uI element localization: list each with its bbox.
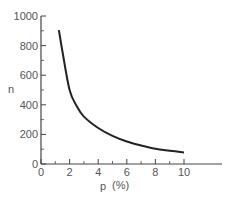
x-tick-label: 6: [124, 166, 130, 178]
y-tick-label: 600: [20, 69, 38, 81]
x-axis-title: p: [100, 180, 106, 192]
x-axis-unit: (%): [112, 179, 129, 191]
axes: 020040060080010000246810: [14, 10, 222, 178]
y-tick-label: 400: [20, 99, 38, 111]
x-tick-label: 4: [95, 166, 101, 178]
y-tick-label: 1000: [14, 10, 38, 22]
chart: 020040060080010000246810 n p (%): [0, 0, 228, 201]
y-tick-label: 200: [20, 128, 38, 140]
data-curve: [59, 30, 184, 152]
x-tick-label: 2: [67, 166, 73, 178]
x-tick-label: 0: [38, 166, 44, 178]
y-tick-label: 800: [20, 40, 38, 52]
y-axis-title: n: [8, 83, 14, 95]
x-tick-label: 8: [152, 166, 158, 178]
curve-layer: [59, 30, 184, 152]
x-tick-label: 10: [178, 166, 190, 178]
